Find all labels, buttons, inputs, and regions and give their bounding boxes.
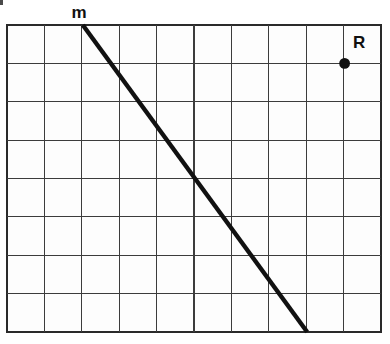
label-line-m: m [71,3,86,22]
point-r-dot [339,58,350,69]
grid-figure: m R [0,0,390,344]
figure-container: m R [0,0,390,344]
label-point-r: R [353,33,365,52]
scan-artifact-speck [0,0,3,5]
